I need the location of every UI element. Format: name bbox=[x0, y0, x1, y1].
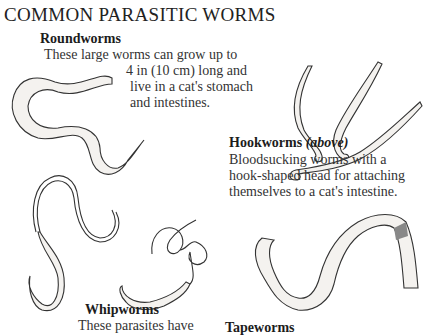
roundworms-text-1: These large worms can grow up to bbox=[44, 47, 237, 63]
whipworms-text-1: These parasites have bbox=[78, 318, 194, 334]
whipworms-heading: Whipworms bbox=[85, 302, 159, 318]
roundworm-illustration bbox=[12, 76, 144, 174]
roundworms-text-3: live in a cat's stomach bbox=[130, 79, 253, 95]
hookworms-text-2: hook-shaped head for attaching bbox=[229, 168, 405, 184]
hookworms-heading-suffix: (above) bbox=[306, 135, 349, 150]
roundworms-text-2: 4 in (10 cm) long and bbox=[126, 63, 247, 79]
hookworms-heading: Hookworms (above) bbox=[229, 135, 348, 151]
tapeworm-illustration bbox=[255, 215, 418, 311]
roundworms-heading: Roundworms bbox=[40, 31, 121, 47]
hookworms-heading-label: Hookworms bbox=[229, 135, 302, 150]
roundworms-text-4: and intestines. bbox=[130, 95, 210, 111]
whipworm-illustration bbox=[29, 176, 207, 311]
tapeworms-heading: Tapeworms bbox=[225, 320, 295, 336]
page-title: COMMON PARASITIC WORMS bbox=[4, 4, 276, 26]
hookworms-text-1: Bloodsucking worms with a bbox=[229, 152, 387, 168]
hookworms-text-3: themselves to a cat's intestine. bbox=[229, 184, 398, 200]
